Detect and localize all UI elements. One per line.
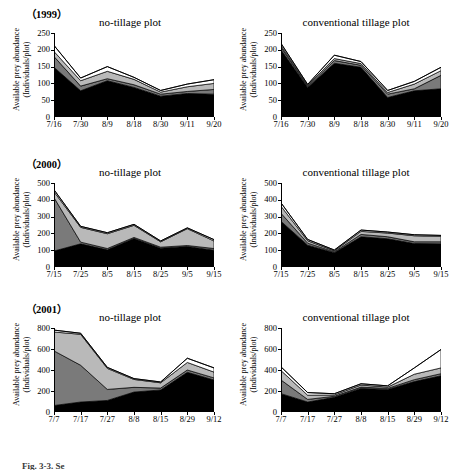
y-tick-labels: 050100150200250 bbox=[251, 27, 279, 123]
x-tick-mark bbox=[161, 267, 162, 271]
y-tick-mark bbox=[278, 183, 282, 184]
y-tick-label: 200 bbox=[37, 387, 50, 396]
y-tick-label: 200 bbox=[264, 387, 277, 396]
panel-2000-conventional: conventional tillage plot Available prey… bbox=[235, 166, 453, 294]
x-tick-label: 9/11 bbox=[173, 119, 201, 129]
x-tick-label: 9/15 bbox=[427, 269, 454, 279]
x-tick-mark bbox=[414, 117, 415, 121]
x-tick-mark bbox=[187, 117, 188, 121]
x-tick-label: 9/5 bbox=[400, 269, 428, 279]
x-tick-mark bbox=[187, 412, 188, 416]
x-tick-label: 9/15 bbox=[200, 269, 228, 279]
area-chart bbox=[281, 183, 441, 267]
x-tick-mark bbox=[214, 412, 215, 416]
y-tick-label: 800 bbox=[37, 324, 50, 333]
y-tick-mark bbox=[51, 391, 55, 392]
y-tick-label: 500 bbox=[37, 179, 50, 188]
x-tick-mark bbox=[107, 267, 108, 271]
y-tick-label: 400 bbox=[37, 195, 50, 204]
panel-2001-no-tillage: no-tillage plot Available prey abundance… bbox=[8, 311, 226, 439]
x-tick-mark bbox=[281, 117, 282, 121]
y-tick-mark bbox=[51, 217, 55, 218]
y-tick-labels: 0200400600800 bbox=[251, 322, 279, 418]
y-axis-line bbox=[281, 33, 282, 117]
y-tick-labels: 0200400600800 bbox=[24, 322, 52, 418]
y-axis-title-line1: Available prey abundance bbox=[12, 18, 22, 122]
figure-row-2001: （2001） no-tillage plot Available prey ab… bbox=[0, 297, 454, 442]
y-tick-mark bbox=[278, 391, 282, 392]
x-tick-label: 8/29 bbox=[173, 414, 201, 424]
x-tick-label: 7/30 bbox=[294, 119, 322, 129]
y-tick-label: 600 bbox=[37, 345, 50, 354]
area-chart bbox=[281, 33, 441, 117]
x-tick-label: 7/16 bbox=[267, 119, 295, 129]
area-chart bbox=[281, 328, 441, 412]
area-chart bbox=[54, 183, 214, 267]
x-tick-label: 8/8 bbox=[347, 414, 375, 424]
x-tick-mark bbox=[361, 412, 362, 416]
x-tick-mark bbox=[334, 267, 335, 271]
y-tick-mark bbox=[278, 83, 282, 84]
y-axis-line bbox=[54, 33, 55, 117]
plot-area: 0100200300400500 7/157/258/58/158/259/59… bbox=[54, 183, 214, 267]
x-tick-mark bbox=[161, 117, 162, 121]
y-tick-label: 200 bbox=[37, 229, 50, 238]
y-tick-label: 300 bbox=[37, 212, 50, 221]
x-tick-mark bbox=[281, 412, 282, 416]
y-tick-mark bbox=[51, 200, 55, 201]
plot-area: 0200400600800 7/77/177/278/88/158/299/12 bbox=[54, 328, 214, 412]
x-tick-mark bbox=[388, 117, 389, 121]
y-tick-label: 200 bbox=[264, 45, 277, 54]
x-tick-mark bbox=[214, 117, 215, 121]
x-tick-label: 7/25 bbox=[294, 269, 322, 279]
x-tick-mark bbox=[134, 412, 135, 416]
y-tick-mark bbox=[51, 250, 55, 251]
y-tick-mark bbox=[51, 83, 55, 84]
x-tick-mark bbox=[361, 267, 362, 271]
x-tick-label: 7/15 bbox=[40, 269, 68, 279]
panel-1999-no-tillage: no-tillage plot Available prey abundance… bbox=[8, 16, 226, 144]
y-tick-mark bbox=[278, 370, 282, 371]
x-tick-label: 9/5 bbox=[173, 269, 201, 279]
y-tick-label: 100 bbox=[264, 246, 277, 255]
x-tick-mark bbox=[334, 412, 335, 416]
y-tick-label: 100 bbox=[264, 79, 277, 88]
x-tick-label: 8/18 bbox=[347, 119, 375, 129]
x-tick-label: 8/8 bbox=[120, 414, 148, 424]
plot-area: 050100150200250 7/167/308/98/188/309/119… bbox=[281, 33, 441, 117]
x-tick-mark bbox=[107, 412, 108, 416]
x-tick-mark bbox=[414, 267, 415, 271]
figure-row-2000: （2000） no-tillage plot Available prey ab… bbox=[0, 152, 454, 297]
y-tick-label: 800 bbox=[264, 324, 277, 333]
x-tick-label: 8/30 bbox=[147, 119, 175, 129]
plot-area: 0100200300400500 7/157/258/58/158/259/59… bbox=[281, 183, 441, 267]
y-tick-mark bbox=[278, 217, 282, 218]
y-tick-mark bbox=[51, 33, 55, 34]
x-tick-label: 8/5 bbox=[320, 269, 348, 279]
x-tick-mark bbox=[54, 267, 55, 271]
x-tick-mark bbox=[361, 117, 362, 121]
area-chart bbox=[54, 328, 214, 412]
y-tick-mark bbox=[278, 100, 282, 101]
x-tick-mark bbox=[107, 117, 108, 121]
x-tick-mark bbox=[81, 412, 82, 416]
y-tick-label: 100 bbox=[37, 79, 50, 88]
y-tick-mark bbox=[51, 67, 55, 68]
y-axis-title-line1: Available prey abundance bbox=[239, 168, 249, 272]
x-tick-label: 8/9 bbox=[93, 119, 121, 129]
y-tick-label: 50 bbox=[42, 96, 51, 105]
y-tick-mark bbox=[51, 328, 55, 329]
y-tick-label: 600 bbox=[264, 345, 277, 354]
x-tick-mark bbox=[134, 117, 135, 121]
x-tick-label: 8/15 bbox=[347, 269, 375, 279]
x-tick-label: 7/15 bbox=[267, 269, 295, 279]
x-tick-label: 7/16 bbox=[40, 119, 68, 129]
y-tick-mark bbox=[278, 67, 282, 68]
x-tick-mark bbox=[441, 412, 442, 416]
y-axis-title-line1: Available prey abundance bbox=[239, 313, 249, 417]
x-tick-mark bbox=[187, 267, 188, 271]
y-axis-title-line1: Available prey abundance bbox=[239, 18, 249, 122]
x-tick-label: 9/20 bbox=[200, 119, 228, 129]
x-tick-label: 8/15 bbox=[374, 414, 402, 424]
y-tick-label: 250 bbox=[37, 29, 50, 38]
